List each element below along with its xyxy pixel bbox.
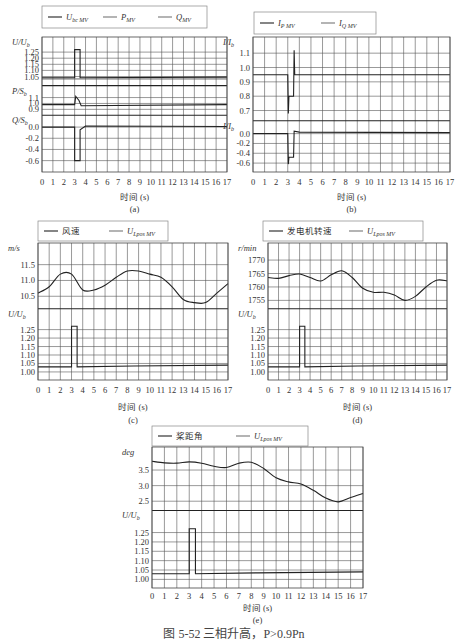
svg-text:11: 11 [284, 591, 292, 601]
svg-text:9: 9 [262, 591, 266, 601]
grid [253, 37, 450, 172]
svg-text:U/Ub: U/Ub [8, 309, 26, 320]
svg-text:3.0: 3.0 [138, 481, 149, 491]
svg-text:1.0: 1.0 [239, 63, 250, 73]
svg-text:1760: 1760 [248, 282, 265, 292]
svg-text:16: 16 [434, 177, 443, 187]
legend: 发电机转速ULpos MV [263, 221, 423, 241]
svg-text:0.8: 0.8 [239, 91, 250, 101]
grid [38, 243, 228, 380]
svg-text:桨距角: 桨距角 [176, 431, 203, 441]
svg-text:U/Ub: U/Ub [238, 309, 256, 320]
svg-text:10: 10 [272, 591, 281, 601]
svg-text:13: 13 [309, 591, 318, 601]
svg-text:0.7: 0.7 [239, 106, 250, 116]
svg-text:12: 12 [390, 385, 399, 395]
svg-text:17: 17 [223, 177, 232, 187]
series-u-bc-mv [42, 50, 227, 78]
x-axis-title: 时间 (s) [337, 192, 366, 202]
subplot-b: IP MVIQ MVI/Ib1.11.00.90.80.7I/Ib0.0-0.2… [222, 12, 454, 214]
svg-text:-0.6: -0.6 [26, 156, 39, 166]
svg-text:0.0: 0.0 [28, 122, 39, 132]
svg-text:14: 14 [190, 177, 199, 187]
svg-text:3: 3 [187, 591, 191, 601]
figure-caption: 图 5-52 三相升高，P>0.9Pn [163, 626, 304, 641]
svg-text:5: 5 [309, 177, 313, 187]
svg-text:6: 6 [329, 385, 333, 395]
svg-text:4: 4 [308, 385, 313, 395]
svg-text:3: 3 [286, 177, 290, 187]
svg-text:8: 8 [344, 177, 348, 187]
svg-text:4: 4 [81, 385, 86, 395]
grid [152, 447, 363, 588]
figure-canvas: Ubc MVPMVQMVU/Ub1.251.201.151.101.05P/Sb… [0, 0, 468, 643]
svg-text:0: 0 [251, 177, 255, 187]
svg-text:9: 9 [355, 177, 359, 187]
svg-text:0: 0 [150, 591, 154, 601]
svg-text:1: 1 [51, 177, 55, 187]
svg-text:-0.2: -0.2 [26, 133, 39, 143]
svg-text:8: 8 [350, 385, 354, 395]
svg-text:11.0: 11.0 [20, 275, 35, 285]
subplot-label: (e) [253, 615, 263, 625]
svg-text:0.0: 0.0 [239, 129, 250, 139]
svg-text:17: 17 [446, 177, 455, 187]
legend: 桨距角ULpos MV [152, 426, 308, 446]
grid [268, 243, 447, 380]
svg-text:0: 0 [36, 385, 40, 395]
svg-text:16: 16 [432, 385, 441, 395]
svg-text:1: 1 [162, 591, 166, 601]
legend: IP MVIQ MV [254, 12, 376, 34]
series-- [268, 271, 447, 301]
svg-text:12: 12 [168, 177, 177, 187]
svg-text:9: 9 [136, 385, 140, 395]
svg-text:17: 17 [443, 385, 452, 395]
svg-text:4: 4 [200, 591, 205, 601]
svg-text:13: 13 [401, 385, 410, 395]
svg-text:4: 4 [297, 177, 302, 187]
svg-text:10.5: 10.5 [20, 291, 35, 301]
svg-text:5: 5 [92, 385, 96, 395]
svg-text:1.00: 1.00 [250, 367, 265, 377]
svg-text:1755: 1755 [248, 295, 265, 305]
svg-text:9: 9 [138, 177, 142, 187]
svg-text:3: 3 [69, 385, 73, 395]
svg-text:1765: 1765 [248, 269, 265, 279]
svg-text:14: 14 [190, 385, 199, 395]
svg-text:13: 13 [179, 385, 188, 395]
svg-text:12: 12 [168, 385, 177, 395]
svg-text:14: 14 [411, 177, 420, 187]
series-i-q-mv [253, 131, 450, 164]
svg-text:-0.4: -0.4 [26, 144, 40, 154]
svg-text:1.05: 1.05 [24, 72, 39, 82]
svg-text:-0.6: -0.6 [237, 158, 250, 168]
svg-text:1.00: 1.00 [20, 367, 35, 377]
svg-text:8: 8 [249, 591, 253, 601]
svg-text:P/Sb: P/Sb [11, 86, 27, 97]
svg-text:2: 2 [287, 385, 291, 395]
svg-text:11: 11 [376, 177, 384, 187]
svg-text:14: 14 [322, 591, 331, 601]
svg-text:5: 5 [94, 177, 98, 187]
svg-text:8: 8 [125, 385, 129, 395]
svg-text:10: 10 [369, 385, 378, 395]
svg-text:5: 5 [212, 591, 216, 601]
svg-text:12: 12 [297, 591, 306, 601]
svg-text:15: 15 [334, 591, 343, 601]
svg-text:7: 7 [116, 177, 120, 187]
svg-text:6: 6 [105, 177, 109, 187]
svg-text:5: 5 [319, 385, 323, 395]
svg-text:0: 0 [266, 385, 270, 395]
svg-text:2: 2 [274, 177, 278, 187]
subplot-label: (a) [130, 204, 140, 214]
svg-text:15: 15 [201, 177, 210, 187]
svg-text:2.5: 2.5 [138, 496, 149, 506]
svg-text:12: 12 [388, 177, 397, 187]
svg-text:15: 15 [201, 385, 210, 395]
svg-text:Q/Sb: Q/Sb [12, 115, 28, 126]
svg-text:I/Ib: I/Ib [222, 37, 234, 48]
svg-text:0: 0 [40, 177, 44, 187]
x-axis-title: 时间 (s) [343, 402, 372, 412]
svg-text:16: 16 [213, 385, 222, 395]
legend: 风速ULpos MV [38, 221, 168, 241]
